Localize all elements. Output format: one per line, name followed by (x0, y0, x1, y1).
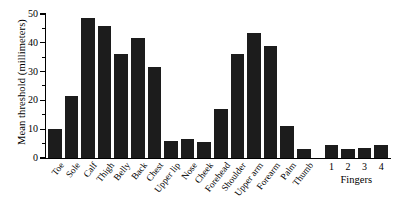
y-tick-label: 0 (2, 153, 38, 163)
y-tick-label: 50 (2, 9, 38, 19)
x-axis-group-label: Fingers (325, 174, 388, 186)
bar (114, 54, 128, 158)
bar (65, 96, 79, 158)
bar (374, 145, 388, 158)
bar (341, 149, 355, 158)
bar (131, 38, 145, 158)
bar (98, 26, 112, 158)
y-tick-label: 30 (2, 67, 38, 77)
bar (148, 67, 162, 158)
x-tick-label-text: Toe (50, 161, 66, 178)
x-tick-label: 4 (371, 161, 391, 172)
y-axis-title: Mean threshold (millimeters) (14, 2, 30, 162)
bar (81, 18, 95, 158)
bar-chart-figure: Mean threshold (millimeters) 01020304050… (0, 0, 401, 222)
bars-container (46, 14, 391, 158)
bar (358, 148, 372, 158)
y-tick-label: 20 (2, 95, 38, 105)
bar (48, 129, 62, 158)
y-tick-label: 40 (2, 38, 38, 48)
y-tick-label: 10 (2, 124, 38, 134)
